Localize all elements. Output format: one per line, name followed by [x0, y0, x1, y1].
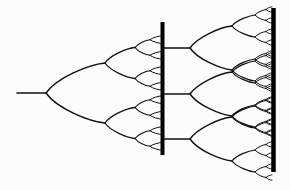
bifurcation-tree-svg: [0, 0, 290, 190]
diagram-background: [0, 0, 290, 190]
diagram-root: [0, 0, 290, 190]
